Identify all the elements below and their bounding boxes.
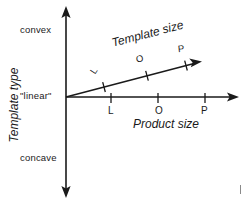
vertical-axis <box>61 6 70 198</box>
horizontal-tick-label-O: O <box>155 106 163 116</box>
axis-label-convex: convex <box>20 25 51 35</box>
horizontal-axis-ticks <box>111 93 205 103</box>
axis-label-concave: concave <box>20 153 57 163</box>
diagonal-tick-label-P: P <box>178 44 185 54</box>
diagonal-ray <box>66 59 202 98</box>
horizontal-axis-title: Product size <box>133 118 199 130</box>
diagram-canvas: Template type convex "linear" concave Te… <box>0 0 243 203</box>
page-edge-mark <box>240 185 241 194</box>
vertical-axis-title: Template type <box>8 68 20 143</box>
axis-label-linear: "linear" <box>20 91 52 101</box>
horizontal-axis <box>66 92 239 101</box>
diagonal-ray-arrow <box>189 59 202 68</box>
diagonal-tick-label-O: O <box>135 53 144 64</box>
horizontal-tick-label-L: L <box>108 106 114 116</box>
horizontal-tick-label-P: P <box>201 106 208 116</box>
